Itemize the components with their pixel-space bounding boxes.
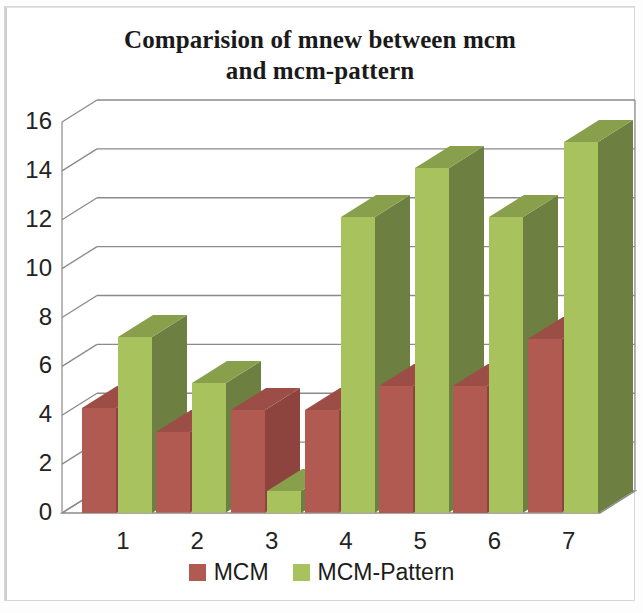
bar-side <box>598 120 633 513</box>
legend-swatch-icon <box>293 564 310 581</box>
bar-face <box>156 432 190 513</box>
bar-face <box>82 408 116 513</box>
bar-face <box>231 410 265 513</box>
gridline-riser <box>62 149 97 171</box>
bar-mcm-pattern-7 <box>564 120 633 513</box>
x-axis-tick-label: 3 <box>252 527 292 555</box>
y-axis-tick-label: 16 <box>8 109 52 133</box>
bar-face <box>305 410 339 513</box>
bar-face <box>489 217 523 513</box>
y-axis-tick-label: 8 <box>8 305 52 329</box>
bar-face <box>564 142 598 513</box>
x-axis-tick-label: 2 <box>177 527 217 555</box>
x-axis-tick-label: 4 <box>326 527 366 555</box>
bar-face <box>528 339 562 513</box>
gridline-riser <box>62 247 97 269</box>
legend-item[interactable]: MCM-Pattern <box>293 561 455 584</box>
x-axis-tick-label: 1 <box>103 527 143 555</box>
plot-area: 0246810121416 1234567 <box>0 0 643 613</box>
y-axis-tick-label: 2 <box>8 451 52 475</box>
y-axis-tick-label: 6 <box>8 353 52 377</box>
y-axis-tick-label: 0 <box>8 500 52 524</box>
legend-item[interactable]: MCM <box>189 561 269 584</box>
bar-face <box>341 217 375 513</box>
legend-label: MCM <box>214 561 269 584</box>
y-axis-tick-label: 12 <box>8 207 52 231</box>
x-axis-tick-label: 7 <box>549 527 589 555</box>
chart-legend: MCMMCM-Pattern <box>0 561 643 584</box>
gridline-riser <box>62 344 97 366</box>
y-axis-tick-label: 4 <box>8 402 52 426</box>
bar-face <box>415 168 449 513</box>
bar-face <box>267 491 301 513</box>
gridline-riser <box>62 100 97 122</box>
gridline-riser <box>62 198 97 220</box>
bar-face <box>192 383 226 513</box>
y-axis-tick-label: 10 <box>8 256 52 280</box>
bar-face <box>453 386 487 513</box>
legend-swatch-icon <box>189 564 206 581</box>
bar-face <box>379 386 413 513</box>
chart-screenshot: Comparision of mnew between mcm and mcm-… <box>0 0 643 613</box>
bar-face <box>118 337 152 513</box>
x-axis-tick-label: 6 <box>474 527 514 555</box>
gridline-riser <box>62 296 97 318</box>
y-axis-tick-label: 14 <box>8 158 52 182</box>
x-axis-tick-label: 5 <box>400 527 440 555</box>
legend-label: MCM-Pattern <box>318 561 455 584</box>
